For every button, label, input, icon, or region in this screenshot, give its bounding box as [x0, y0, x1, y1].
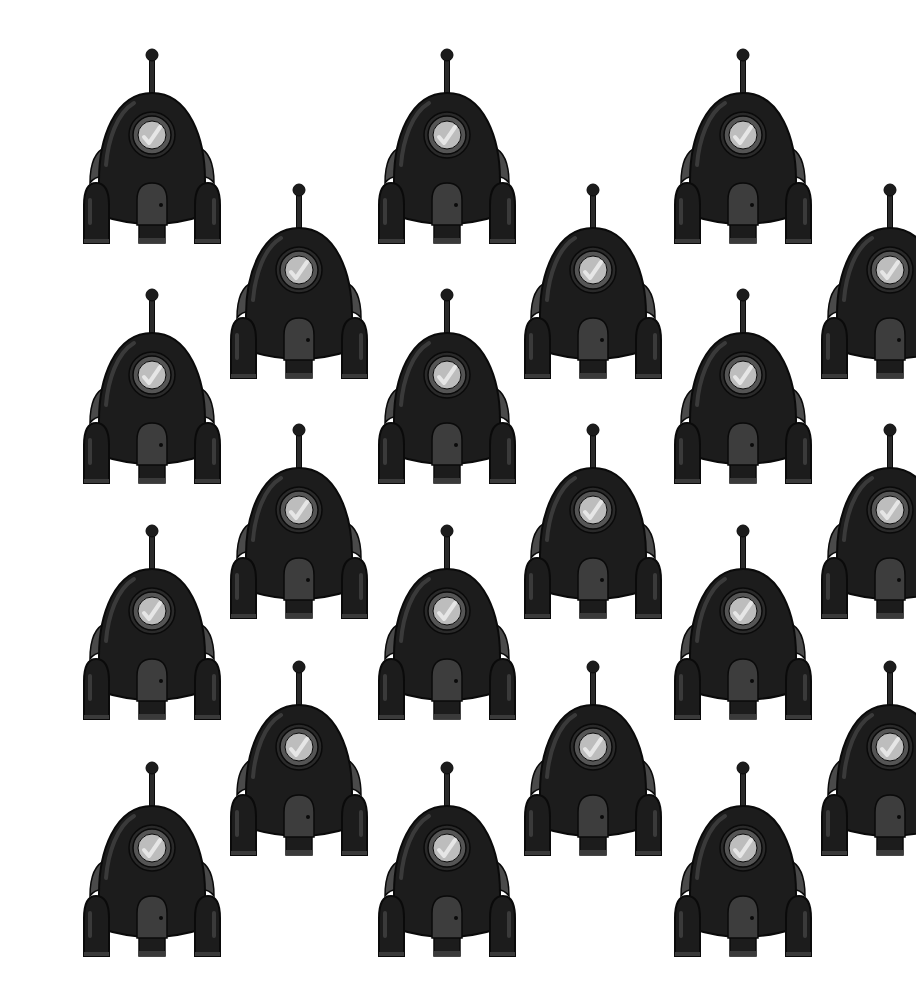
rocket-icon: [297, 275, 447, 475]
rocket-icon: [297, 511, 447, 711]
rocket-icon: [2, 275, 152, 475]
rocket-icon: [593, 748, 743, 948]
rocket-pattern-canvas: [0, 0, 916, 984]
rocket-icon: [2, 35, 152, 235]
rocket-icon: [297, 35, 447, 235]
rocket-icon: [297, 748, 447, 948]
rocket-icon: [2, 511, 152, 711]
rocket-icon: [593, 275, 743, 475]
rocket-icon: [593, 35, 743, 235]
rocket-icon: [593, 511, 743, 711]
rocket-icon: [2, 748, 152, 948]
